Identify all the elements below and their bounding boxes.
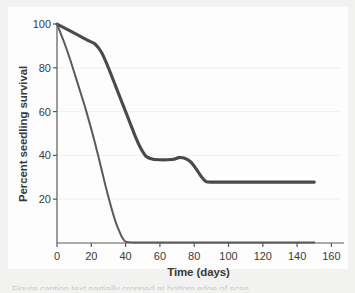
y-axis-title: Percent seedling survival	[17, 39, 29, 229]
x-tick-label-20: 20	[85, 250, 97, 262]
data-series-group	[57, 24, 314, 243]
x-tick-label-40: 40	[119, 250, 131, 262]
axis-group	[57, 23, 344, 243]
series-line-2	[57, 24, 314, 243]
caption-fragment: Figure caption text partially cropped at…	[12, 283, 332, 290]
series-line-1	[57, 24, 314, 182]
x-tick-label-80: 80	[188, 250, 200, 262]
x-tick-label-0: 0	[54, 250, 60, 262]
gridline-group	[57, 68, 340, 199]
tick-mark-group	[53, 24, 331, 247]
x-tick-label-140: 140	[288, 250, 306, 262]
x-tick-label-100: 100	[219, 250, 237, 262]
x-tick-label-60: 60	[154, 250, 166, 262]
x-tick-label-120: 120	[254, 250, 272, 262]
x-axis-title: Time (days)	[57, 266, 340, 278]
y-tick-label-100: 100	[15, 18, 51, 30]
figure-container: 20406080100020406080100120140160 Percent…	[0, 0, 355, 293]
x-tick-label-160: 160	[322, 250, 340, 262]
